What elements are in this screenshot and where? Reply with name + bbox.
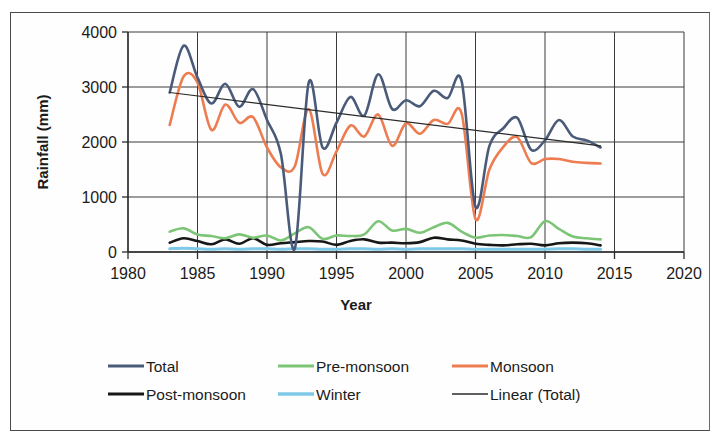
legend-label-post-monsoon: Post-monsoon (146, 386, 246, 403)
x-tick-label: 1995 (319, 265, 355, 282)
x-tick-label: 1990 (249, 265, 285, 282)
y-tick-label: 0 (108, 244, 117, 261)
x-tick-label: 2000 (388, 265, 424, 282)
x-tick-label: 2010 (527, 265, 563, 282)
y-tick-label: 3000 (81, 79, 117, 96)
y-axis-title: Rainfall (mm) (34, 94, 51, 189)
legend-group: TotalPre-monsoonMonsoonPost-monsoonWinte… (108, 358, 580, 403)
data-series-group (170, 46, 601, 250)
chart-canvas: 40003000200010000 1980198519901995200020… (0, 0, 712, 431)
y-tick-label: 2000 (81, 134, 117, 151)
x-tick-label: 2005 (458, 265, 494, 282)
x-axis-title: Year (340, 296, 372, 313)
series-line-pre-monsoon (170, 221, 601, 240)
x-tick-label: 2020 (666, 265, 702, 282)
series-line-winter (170, 248, 601, 249)
x-tick-labels-group: 198019851990199520002005201020152020 (110, 265, 702, 282)
y-tick-label: 1000 (81, 189, 117, 206)
trendline-linear-total (170, 93, 601, 146)
x-tick-label: 1980 (110, 265, 146, 282)
trendline-group (170, 93, 601, 146)
series-line-total (170, 46, 601, 250)
x-tick-label: 2015 (597, 265, 633, 282)
legend-label-total: Total (146, 358, 179, 375)
y-tick-labels-group: 40003000200010000 (81, 24, 117, 261)
x-tick-label: 1985 (180, 265, 216, 282)
legend-label-monsoon: Monsoon (490, 358, 554, 375)
legend-label-pre-monsoon: Pre-monsoon (316, 358, 409, 375)
series-line-post-monsoon (170, 238, 601, 246)
legend-label-winter: Winter (316, 386, 361, 403)
rainfall-trend-chart: 40003000200010000 1980198519901995200020… (0, 0, 712, 431)
y-tick-label: 4000 (81, 24, 117, 41)
legend-label-linear-total: Linear (Total) (490, 386, 580, 403)
gridlines-group (128, 32, 684, 252)
series-line-monsoon (170, 73, 601, 220)
